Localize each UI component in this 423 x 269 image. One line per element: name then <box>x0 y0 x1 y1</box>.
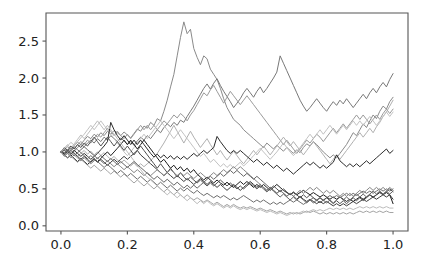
y-tick-label-0: 0.0 <box>18 218 39 233</box>
y-tick-label-1: 0.5 <box>18 181 39 196</box>
x-tick-label-3: 0.6 <box>250 237 271 252</box>
y-tick-label-3: 1.5 <box>18 107 39 122</box>
series-layer <box>61 22 393 216</box>
y-tick-label-4: 2.0 <box>18 71 39 86</box>
y-tick-label-2: 1.0 <box>18 144 39 159</box>
figure-canvas: 0.00.20.40.60.81.00.00.51.01.52.02.5 <box>0 0 423 269</box>
x-tick-label-5: 1.0 <box>383 237 404 252</box>
x-tick-label-1: 0.2 <box>117 237 138 252</box>
series-line-1 <box>61 22 393 158</box>
x-tick-label-4: 0.8 <box>316 237 337 252</box>
x-tick-label-0: 0.0 <box>51 237 72 252</box>
y-tick-label-5: 2.5 <box>18 34 39 49</box>
line-chart: 0.00.20.40.60.81.00.00.51.01.52.02.5 <box>0 0 423 269</box>
series-line-2 <box>61 56 393 154</box>
x-tick-label-2: 0.4 <box>183 237 204 252</box>
series-line-10 <box>61 152 393 214</box>
